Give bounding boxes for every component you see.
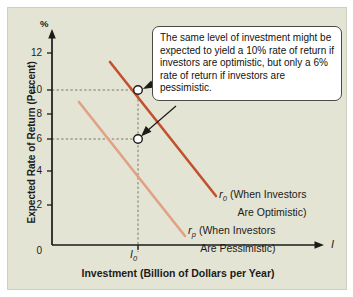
- callout-text: The same level of investment might be ex…: [160, 32, 334, 93]
- arrow-head-lower: [142, 127, 150, 135]
- curve-label-optimistic: r0 (When Investors Are Optimistic): [219, 188, 306, 218]
- curve-subscript-optimistic: 0: [223, 194, 227, 203]
- y-axis-arrowhead: [48, 29, 56, 39]
- curve-caption-optimistic-line1: (When Investors: [230, 188, 306, 200]
- x-axis-title: Investment (Billion of Dollars per Year): [38, 267, 318, 279]
- y-axis-unit-percent: %: [40, 18, 48, 29]
- curve-symbol-optimistic: r0: [219, 188, 227, 200]
- x-axis-point-subscript: 0: [133, 254, 137, 263]
- y-axis-title: Expected Rate of Return (Percent): [26, 64, 37, 224]
- x-axis-unit-investment: I: [331, 238, 334, 250]
- curve-pessimistic: [79, 102, 185, 236]
- curve-caption-optimistic-line2: Are Optimistic): [219, 206, 306, 219]
- guide-lines: [52, 90, 138, 252]
- marker-optimistic-point: [134, 86, 143, 95]
- x-axis-arrowhead: [315, 241, 325, 249]
- marker-pessimistic-point: [134, 135, 143, 144]
- explanation-callout: The same level of investment might be ex…: [152, 26, 342, 101]
- curve-symbol-pessimistic: rp: [188, 224, 196, 236]
- curve-caption-pessimistic-line1: (When Investors: [199, 224, 275, 236]
- curve-label-pessimistic: rp (When Investors Are Pessimistic): [188, 224, 275, 254]
- x-axis-point-label-i0: I0: [130, 248, 137, 263]
- y-tick-label-12: 12: [20, 47, 42, 58]
- investment-demand-figure: 12 10 8 6 4 2 0 % I Expected Rate of Ret…: [0, 0, 353, 297]
- curve-caption-pessimistic-line2: Are Pessimistic): [188, 242, 275, 255]
- curve-subscript-pessimistic: p: [192, 230, 196, 239]
- y-tick-label-0: 0: [20, 245, 42, 256]
